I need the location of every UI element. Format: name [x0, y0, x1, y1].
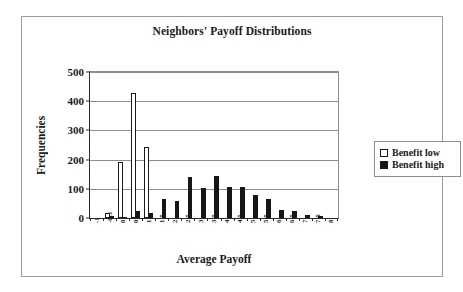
x-tick-label: 6 — [276, 220, 283, 224]
gridline — [90, 72, 338, 73]
chart-legend: Benefit low Benefit high — [374, 141, 461, 177]
gridline — [90, 101, 338, 102]
bar — [201, 188, 206, 218]
y-tick-mark — [86, 188, 90, 189]
bar — [118, 162, 123, 218]
white-square-icon — [380, 149, 388, 157]
bar — [188, 177, 193, 218]
bar — [162, 199, 167, 218]
x-tick-mark — [247, 218, 248, 221]
bar — [110, 216, 115, 218]
x-tick-mark — [103, 218, 104, 221]
x-tick-label: 3 — [197, 220, 204, 224]
y-tick-label: 500 — [68, 66, 85, 78]
y-tick-mark — [86, 130, 90, 131]
y-tick-label: 100 — [68, 183, 85, 195]
bar — [240, 187, 245, 218]
bar — [266, 199, 271, 218]
x-tick-mark — [181, 218, 182, 221]
x-tick-mark — [155, 218, 156, 221]
x-tick-label: 7 — [302, 220, 309, 224]
chart-title: Neighbors' Payoff Distributions — [22, 25, 442, 37]
y-tick-label: 200 — [68, 154, 85, 166]
y-tick-mark — [86, 101, 90, 102]
gridline — [90, 130, 338, 131]
x-tick-mark — [142, 218, 143, 221]
bar — [131, 93, 136, 218]
bar — [305, 215, 310, 219]
bar — [144, 147, 149, 218]
legend-item-benefit-low: Benefit low — [380, 147, 455, 158]
bar — [279, 210, 284, 218]
bar — [175, 201, 180, 218]
y-axis-title: Frequencies — [35, 71, 47, 219]
x-tick-label: 5 — [250, 220, 257, 224]
y-tick-label: 300 — [68, 124, 85, 136]
legend-item-benefit-high: Benefit high — [380, 159, 455, 170]
x-tick-mark — [116, 218, 117, 221]
x-tick-mark — [221, 218, 222, 221]
bar — [123, 217, 128, 218]
x-tick-mark — [207, 218, 208, 221]
y-tick-mark — [86, 72, 90, 73]
bar — [214, 176, 219, 218]
x-tick-label: 1 — [145, 220, 152, 224]
black-square-icon — [380, 161, 388, 169]
x-tick-mark — [234, 218, 235, 221]
figure-frame: Neighbors' Payoff Distributions Frequenc… — [21, 16, 443, 277]
x-tick-mark — [168, 218, 169, 221]
bar — [318, 216, 323, 218]
gridline — [90, 160, 338, 161]
x-axis-title: Average Payoff — [89, 253, 339, 265]
legend-label: Benefit high — [392, 159, 444, 170]
x-tick-label: -1 — [93, 217, 100, 223]
y-tick-label: 0 — [79, 212, 85, 224]
bar — [136, 211, 141, 218]
y-tick-label: 400 — [68, 95, 85, 107]
x-tick-label: 0 — [119, 220, 126, 224]
bar — [253, 195, 258, 218]
x-tick-label: 8 — [328, 220, 335, 224]
bar — [227, 187, 232, 218]
legend-label: Benefit low — [392, 147, 440, 158]
x-tick-mark — [337, 218, 338, 221]
plot-area: 0100200300400500-1-0.500.511.522.533.544… — [89, 71, 339, 219]
bar — [149, 213, 154, 218]
x-tick-mark — [129, 218, 130, 221]
x-tick-label: 4 — [224, 220, 231, 224]
y-tick-mark — [86, 159, 90, 160]
x-tick-label: 2 — [171, 220, 178, 224]
bar — [292, 211, 297, 218]
x-tick-mark — [90, 218, 91, 221]
x-tick-mark — [194, 218, 195, 221]
